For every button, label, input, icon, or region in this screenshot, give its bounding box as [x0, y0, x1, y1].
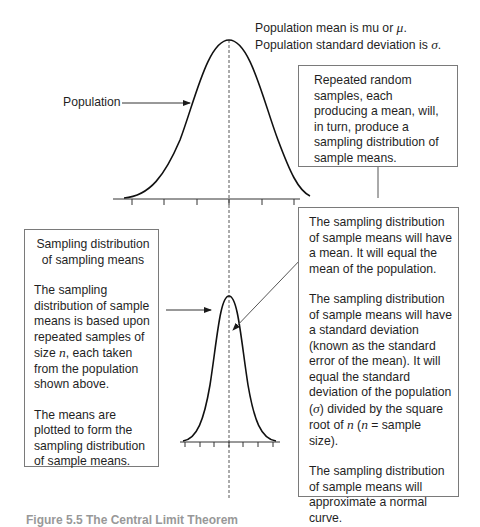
population-axis — [113, 199, 300, 205]
sampling-axis — [180, 442, 280, 447]
sampling-box-title: Sampling distribution of sampling means — [34, 237, 152, 268]
repeated-samples-text: Repeated random samples, each producing … — [314, 73, 447, 166]
figure-caption: Figure 5.5 The Central Limit Theorem — [26, 513, 238, 527]
properties-para-sd: The sampling distribution of sample mean… — [309, 292, 452, 449]
sampling-box-para2: The means are plotted to form the sampli… — [34, 408, 152, 470]
mean-pointer-arrow — [233, 257, 303, 330]
population-parameters-note: Population mean is mu or μ. Population s… — [255, 20, 480, 53]
population-curve — [124, 40, 310, 198]
sampling-explanation-box: Sampling distribution of sampling means … — [24, 229, 159, 467]
sampling-box-para1: The sampling distribution of sample mean… — [34, 283, 152, 393]
sigma-symbol: σ — [431, 37, 438, 52]
repeated-samples-box: Repeated random samples, each producing … — [298, 65, 458, 167]
population-sd-line: Population standard deviation is σ. — [255, 37, 480, 54]
population-label: Population — [63, 95, 121, 111]
properties-para-normal: The sampling distribution of sample mean… — [309, 464, 452, 526]
properties-para-mean: The sampling distribution of sample mean… — [309, 215, 452, 277]
properties-box: The sampling distribution of sample mean… — [298, 207, 459, 497]
sampling-distribution-curve — [183, 296, 276, 441]
population-mean-line: Population mean is mu or μ. — [255, 20, 480, 37]
